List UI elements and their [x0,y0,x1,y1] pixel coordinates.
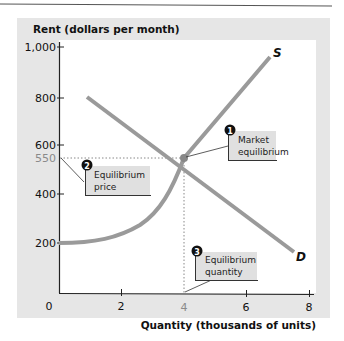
x-tick-4: 4 [181,301,188,314]
callout-2-line2: price [94,182,117,192]
top-rule [0,4,332,6]
callout-3-line2: quantity [205,267,243,277]
callout-1-line2: equilibrium [238,147,289,157]
chart-figure: Rent (dollars per month) 1,000 800 600 5… [0,0,344,341]
callout-1-number: 1 [227,127,233,136]
x-tick-6: 6 [243,301,250,314]
demand-label: D [296,250,306,264]
callout-3-number: 3 [194,248,200,257]
y-tick-600: 600 [35,139,56,152]
y-tick-550: 550 [35,152,56,165]
y-axis-title: Rent (dollars per month) [33,23,180,35]
callout-2-line1: Equilibrium [94,170,145,180]
equilibrium-point [180,154,188,162]
callout-2-number: 2 [84,162,90,171]
y-tick-400: 400 [35,188,56,201]
y-tick-200: 200 [35,237,56,250]
callout-3-line1: Equilibrium [205,255,256,265]
x-tick-0: 0 [46,300,53,313]
y-tick-800: 800 [35,92,56,105]
y-tick-1000: 1,000 [25,41,57,54]
x-axis-title: Quantity (thousands of units) [141,319,316,331]
callout-1-line1: Market [238,135,269,145]
x-tick-8: 8 [306,301,313,314]
supply-label: S [273,46,282,60]
x-tick-2: 2 [118,300,125,313]
